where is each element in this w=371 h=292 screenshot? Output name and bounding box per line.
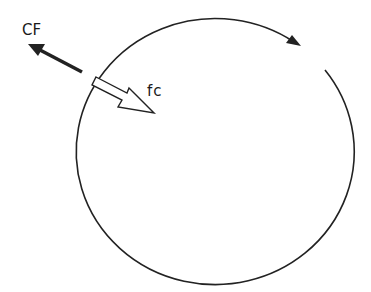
centrifugal-force-label: CF <box>22 23 41 38</box>
circular-path <box>76 19 354 285</box>
solid-arrow-outward-icon <box>28 44 82 72</box>
circular-motion-diagram: CF fc <box>0 0 371 292</box>
centripetal-force-label: fc <box>147 84 163 99</box>
clockwise-arrow-icon <box>286 35 301 46</box>
hollow-arrow-inward-icon <box>92 77 154 113</box>
